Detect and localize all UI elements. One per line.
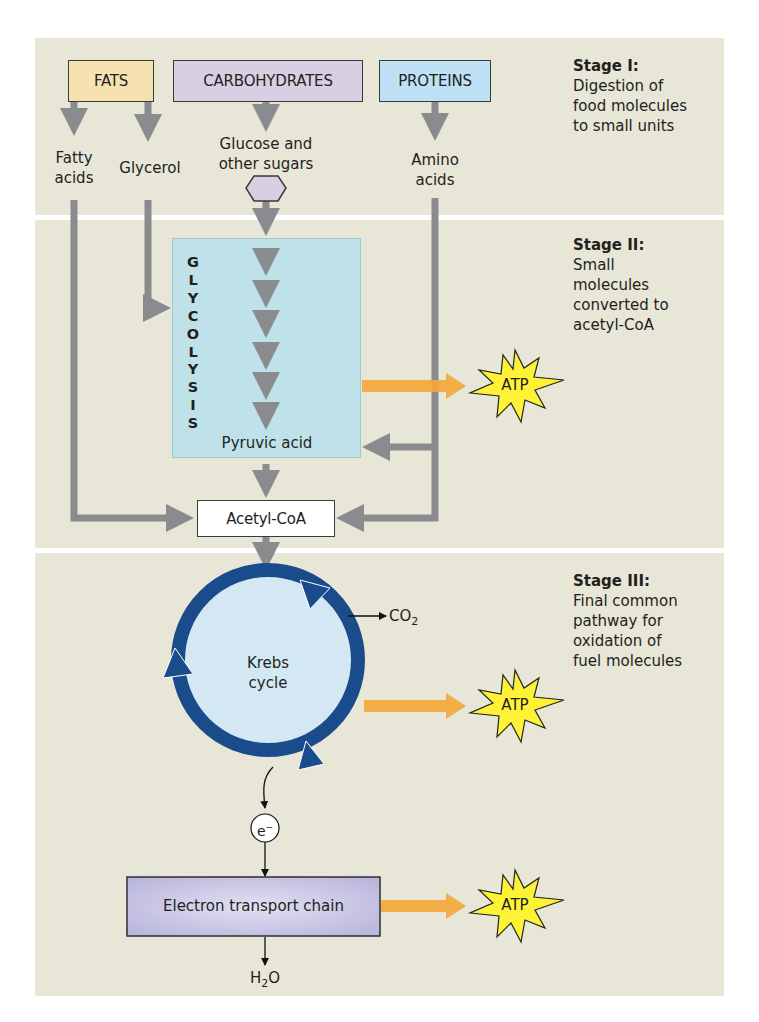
fats-label: FATS [94,72,128,90]
proteins-label: PROTEINS [398,72,471,90]
krebs-cycle-label: Krebs cycle [228,653,308,693]
glucose-hexagon-icon [246,176,286,201]
carbohydrates-box: CARBOHYDRATES [173,60,363,102]
pathway-arrows [0,0,759,1022]
pyruvic-acid-label: Pyruvic acid [200,433,334,453]
water-label: H2O [245,968,285,994]
carbohydrates-label: CARBOHYDRATES [203,72,332,90]
glycerol-label: Glycerol [108,158,192,178]
energy-arrows [362,373,466,919]
fatty-acid-path [74,200,180,518]
fatty-acids-label: Fatty acids [40,148,108,188]
stage-2-description: Stage II: Small molecules converted to a… [573,235,669,335]
stage-1-description: Stage I: Digestion of food molecules to … [573,56,687,136]
amino-acids-label: Amino acids [395,150,475,190]
atp-label-2: ATP [485,696,545,714]
acetyl-coa-box: Acetyl-CoA [197,500,335,537]
acetyl-coa-label: Acetyl-CoA [226,510,306,528]
glucose-label: Glucose and other sugars [196,134,336,174]
co2-label: CO2 [389,606,418,632]
electron-label: e− [253,817,277,841]
stage1-arrows [74,101,435,128]
etc-label: Electron transport chain [127,896,380,916]
stage-3-description: Stage III: Final common pathway for oxid… [573,571,682,671]
glycerol-path [148,200,157,308]
atp-label-1: ATP [485,376,545,394]
glycolysis-label: GL YC OL YS IS [183,254,203,433]
amino-acid-path [350,198,435,518]
electron-arrow [264,767,273,808]
proteins-box: PROTEINS [379,60,491,102]
fats-box: FATS [68,60,154,102]
atp-label-3: ATP [485,896,545,914]
